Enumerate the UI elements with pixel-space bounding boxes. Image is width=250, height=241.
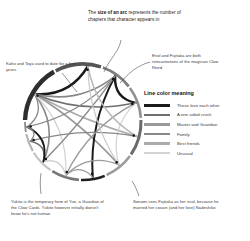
legend-label: Family (177, 132, 190, 137)
character-arc (25, 122, 26, 132)
legend-title: Line color meaning (144, 90, 248, 96)
legend-label: Master and Guardian (177, 122, 217, 127)
legend-label: A one-sided crush (177, 112, 211, 117)
legend-item: Unusual (144, 148, 248, 158)
legend-rows: These love each otherA one-sided crushMa… (144, 101, 248, 159)
legend-label: These love each other (177, 103, 220, 108)
anchor-dot (132, 134, 135, 137)
chord-ribbons (27, 66, 137, 177)
anchor-dot (32, 139, 35, 142)
legend-swatch (144, 152, 170, 154)
annotation-kaho: Kaho and Toya used to date for a few yea… (6, 61, 78, 73)
legend-item: Best friends (144, 139, 248, 149)
legend-item: Family (144, 129, 248, 139)
leader-line-sonomi (132, 181, 139, 196)
legend-item: Master and Guardian (144, 120, 248, 130)
relationship-chord (35, 94, 50, 162)
character-arc (131, 120, 141, 154)
anchor-dot (29, 125, 32, 128)
annotation-arc-size: The size of an arc represents the number… (88, 10, 186, 23)
arc-size-lead: The (88, 10, 97, 15)
relationship-chord (35, 94, 120, 165)
outer-arcs (25, 64, 141, 180)
anchor-dot (36, 95, 39, 98)
legend-label: Unusual (177, 151, 193, 156)
legend-swatch (144, 133, 170, 135)
legend-swatch (144, 142, 170, 144)
anchor-dot (112, 78, 115, 81)
legend-swatch (144, 114, 170, 116)
anchor-dot (66, 171, 69, 174)
infographic-canvas: The size of an arc represents the number… (0, 0, 250, 241)
anchor-dot (116, 161, 119, 164)
leader-line-yukito (40, 173, 41, 194)
relationship-chord (30, 132, 137, 141)
annotation-yukito: Yukito is the temporary form of Yue, a G… (11, 199, 106, 216)
arc-size-bold: size of an arc (97, 10, 127, 15)
legend-swatch (144, 123, 170, 125)
legend-item: These love each other (144, 101, 248, 111)
anchor-dot (86, 68, 89, 71)
legend-swatch (144, 104, 170, 107)
legend: Line color meaning These love each other… (144, 90, 248, 158)
legend-label: Best friends (177, 141, 200, 146)
character-arc (26, 134, 33, 151)
leader-line-arc-size (104, 40, 121, 72)
annotation-eriol: Eriol and Fujitaka are both reincarnatio… (152, 53, 228, 70)
anchor-dot (45, 158, 48, 161)
anchor-dot (131, 103, 134, 106)
anchor-dot (91, 172, 94, 175)
annotation-sonomi: Sonomi sees Fujitaka as her rival, becau… (133, 199, 229, 211)
character-arc (107, 156, 130, 175)
legend-item: A one-sided crush (144, 110, 248, 120)
